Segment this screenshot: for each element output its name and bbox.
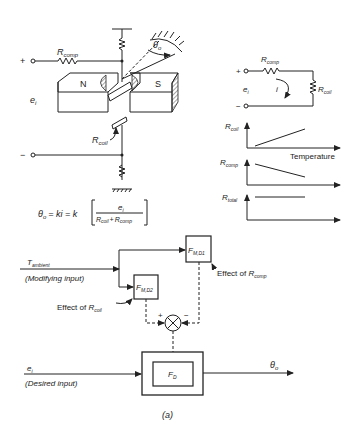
effect-coil-label: Effect of Rcoil: [57, 303, 103, 313]
effect-comp-label: Effect of Rcomp: [217, 269, 267, 279]
instrument-diagram: θo N S ei Rcoil + − Rcomp θo= ki: [0, 0, 357, 439]
svg-text:+: +: [158, 311, 163, 320]
temperature-axis-label: Temperature: [290, 152, 335, 161]
modifying-input-label: (Modifying input): [25, 274, 84, 283]
current-arrow: [276, 79, 288, 98]
r-comp-resistor-icon: [58, 58, 77, 64]
svg-text:−: −: [184, 311, 189, 320]
svg-text:Rcoil: Rcoil: [225, 122, 239, 132]
svg-text:Rcomp: Rcomp: [220, 158, 238, 168]
svg-text:+: +: [236, 67, 241, 76]
svg-text:−: −: [236, 102, 241, 111]
r-comp-trend: [255, 164, 305, 177]
n-pole-label: N: [80, 79, 87, 89]
equivalent-circuit: + − Rcomp Rcoil ei i: [236, 55, 332, 111]
minus-terminal: [31, 153, 35, 157]
svg-text:Rcoil: Rcoil: [318, 85, 332, 95]
figure-caption: (a): [162, 410, 173, 420]
block-diagram: Tambient (Modifying input) FM,D1 Effect …: [20, 236, 293, 395]
t-ambient-label: Tambient: [27, 258, 50, 268]
circuit-r-coil-icon: [310, 80, 316, 94]
svg-text:Rcoil+Rcomp: Rcoil+Rcomp: [96, 216, 132, 224]
svg-text:θo= ki = k: θo= ki = k: [38, 209, 78, 220]
r-comp-label: Rcomp: [57, 47, 79, 58]
ei-input-label: ei: [27, 364, 33, 374]
desired-input-label: (Desired input): [25, 379, 78, 388]
svg-text:Rtotal: Rtotal: [222, 193, 238, 203]
ei-label: ei: [30, 95, 37, 106]
output-equation: θo= ki = k ei Rcoil+Rcomp: [38, 200, 147, 225]
s-pole-label: S: [155, 79, 161, 89]
theta-output-label: θo: [270, 360, 279, 371]
resistance-temperature-chart: Rcoil Temperature Rcomp Rtotal: [220, 122, 340, 220]
top-spring-icon: [119, 38, 125, 50]
svg-text:Rcomp: Rcomp: [261, 55, 279, 65]
circuit-r-comp-icon: [263, 68, 279, 74]
svg-text:i: i: [276, 85, 278, 94]
galvanometer-apparatus: θo N S ei Rcoil + − Rcomp: [20, 29, 184, 192]
svg-text:−: −: [20, 150, 25, 160]
theta-label: θo: [153, 40, 162, 51]
plus-terminal: [31, 59, 35, 63]
svg-text:+: +: [20, 56, 25, 66]
r-coil-label: Rcoil: [92, 135, 108, 146]
svg-text:ei: ei: [243, 85, 249, 95]
svg-text:ei: ei: [118, 203, 124, 213]
r-coil-trend: [255, 129, 305, 146]
